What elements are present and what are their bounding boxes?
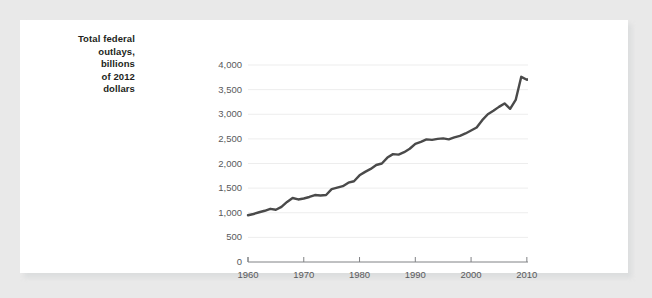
y-axis-title-line-4: of 2012 bbox=[60, 71, 135, 84]
y-axis-title-line-3: billions bbox=[60, 58, 135, 71]
y-tick-label: 3,500 bbox=[196, 85, 242, 95]
x-tick-label: 1960 bbox=[226, 270, 270, 280]
y-axis-title-line-1: Total federal bbox=[60, 33, 135, 46]
x-tick-label: 1970 bbox=[282, 270, 326, 280]
y-tick-label: 4,000 bbox=[196, 60, 242, 70]
y-tick-label: 2,500 bbox=[196, 134, 242, 144]
x-tick-label: 2010 bbox=[505, 270, 549, 280]
chart-figure: Total federal outlays, billions of 2012 … bbox=[20, 20, 628, 273]
y-tick-label: 3,000 bbox=[196, 109, 242, 119]
y-axis-title-line-5: dollars bbox=[60, 83, 135, 96]
y-tick-label: 1,000 bbox=[196, 208, 242, 218]
y-tick-label: 0 bbox=[196, 257, 242, 267]
figure-card: Total federal outlays, billions of 2012 … bbox=[20, 20, 628, 273]
plot-area: 4,0003,5003,0002,5002,0001,5001,00050001… bbox=[208, 20, 528, 273]
screenshot-root: Total federal outlays, billions of 2012 … bbox=[0, 0, 652, 298]
data-line-total-federal-outlays bbox=[248, 77, 528, 215]
y-tick-label: 1,500 bbox=[196, 183, 242, 193]
x-tick-label: 1980 bbox=[338, 270, 382, 280]
x-tick-label: 2000 bbox=[449, 270, 493, 280]
y-axis-title-line-2: outlays, bbox=[60, 46, 135, 59]
line-chart-svg bbox=[208, 20, 528, 273]
y-tick-label: 2,000 bbox=[196, 159, 242, 169]
y-axis-title: Total federal outlays, billions of 2012 … bbox=[60, 33, 135, 96]
y-tick-label: 500 bbox=[196, 232, 242, 242]
x-tick-label: 1990 bbox=[393, 270, 437, 280]
